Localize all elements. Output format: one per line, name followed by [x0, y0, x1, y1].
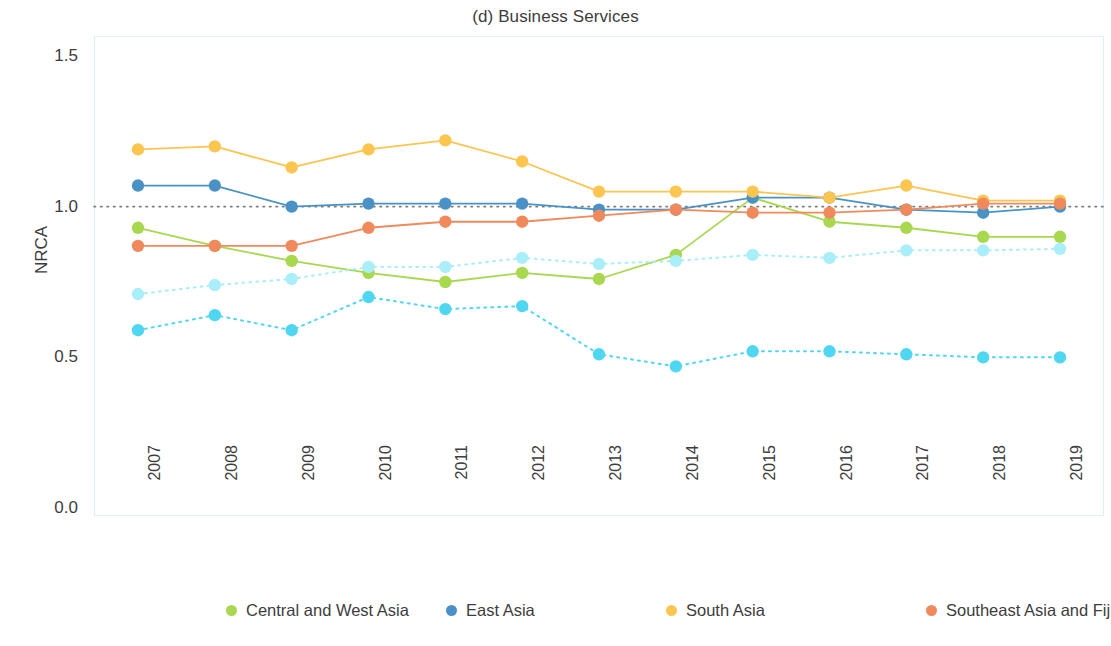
data-point: [1054, 351, 1066, 363]
data-point: [516, 197, 528, 209]
data-point: [900, 203, 912, 215]
data-point: [285, 240, 297, 252]
data-point: [516, 155, 528, 167]
data-point: [132, 288, 144, 300]
data-point: [823, 345, 835, 357]
data-point: [593, 185, 605, 197]
legend-label: South Asia: [686, 601, 765, 620]
data-point: [209, 279, 221, 291]
series-japan: [132, 291, 1066, 373]
data-point: [977, 231, 989, 243]
data-point: [132, 324, 144, 336]
data-point: [670, 255, 682, 267]
data-point: [439, 134, 451, 146]
data-point: [362, 291, 374, 303]
x-tick-label: 2019: [1068, 445, 1086, 525]
data-point: [132, 143, 144, 155]
data-point: [823, 191, 835, 203]
series-people-s-republic-of-china: [132, 243, 1066, 301]
data-point: [209, 140, 221, 152]
data-point: [209, 240, 221, 252]
legend-item[interactable]: Central and West Asia: [226, 598, 446, 622]
legend-swatch-icon: [446, 605, 457, 616]
data-point: [516, 216, 528, 228]
data-point: [670, 360, 682, 372]
data-point: [900, 244, 912, 256]
y-tick-label: 0.0: [20, 498, 78, 518]
data-point: [900, 179, 912, 191]
legend-swatch-icon: [226, 605, 237, 616]
data-point: [285, 273, 297, 285]
x-tick-label: 2015: [761, 445, 779, 525]
y-tick-label: 1.0: [20, 197, 78, 217]
data-point: [516, 267, 528, 279]
data-point: [516, 300, 528, 312]
data-point: [670, 185, 682, 197]
data-point: [132, 240, 144, 252]
data-point: [1054, 197, 1066, 209]
x-tick-label: 2012: [530, 445, 548, 525]
legend-item[interactable]: South Asia: [666, 598, 926, 622]
chart-legend: Central and West AsiaEast AsiaSouth Asia…: [226, 598, 926, 622]
data-point: [746, 345, 758, 357]
data-point: [439, 197, 451, 209]
x-tick-label: 2011: [453, 445, 471, 525]
data-point: [362, 222, 374, 234]
data-point: [746, 249, 758, 261]
x-tick-label: 2018: [991, 445, 1009, 525]
x-tick-label: 2014: [684, 445, 702, 525]
x-tick-label: 2009: [300, 445, 318, 525]
x-tick-label: 2010: [377, 445, 395, 525]
chart-figure: (d) Business Services NRCA 0.00.51.01.5 …: [0, 0, 1111, 646]
data-point: [132, 222, 144, 234]
data-point: [439, 276, 451, 288]
data-point: [362, 143, 374, 155]
legend-label: Central and West Asia: [246, 601, 409, 620]
series-line: [138, 249, 1060, 294]
data-point: [977, 197, 989, 209]
data-point: [209, 179, 221, 191]
legend-item[interactable]: East Asia: [446, 598, 666, 622]
data-point: [439, 216, 451, 228]
data-point: [977, 351, 989, 363]
data-point: [285, 200, 297, 212]
y-tick-label: 0.5: [20, 347, 78, 367]
data-point: [1054, 231, 1066, 243]
x-tick-label: 2007: [146, 445, 164, 525]
legend-swatch-icon: [666, 605, 677, 616]
data-point: [593, 348, 605, 360]
data-point: [362, 261, 374, 273]
data-point: [439, 261, 451, 273]
data-point: [823, 252, 835, 264]
series-south-asia: [132, 134, 1066, 207]
data-point: [285, 161, 297, 173]
data-point: [900, 222, 912, 234]
data-point: [1054, 243, 1066, 255]
legend-label: East Asia: [466, 601, 535, 620]
data-point: [593, 258, 605, 270]
data-point: [285, 255, 297, 267]
data-point: [823, 206, 835, 218]
data-point: [132, 179, 144, 191]
data-point: [516, 252, 528, 264]
data-point: [670, 203, 682, 215]
legend-label: Southeast Asia and Fiji: [946, 601, 1111, 620]
x-tick-label: 2008: [223, 445, 241, 525]
x-tick-label: 2017: [914, 445, 932, 525]
legend-item[interactable]: Southeast Asia and Fiji: [926, 598, 1111, 622]
chart-canvas: [94, 36, 1104, 516]
chart-title: (d) Business Services: [0, 7, 1111, 27]
data-point: [746, 206, 758, 218]
x-tick-label: 2016: [838, 445, 856, 525]
data-point: [439, 303, 451, 315]
data-point: [746, 185, 758, 197]
data-point: [362, 197, 374, 209]
legend-swatch-icon: [926, 605, 937, 616]
data-point: [285, 324, 297, 336]
data-point: [593, 273, 605, 285]
x-tick-label: 2013: [607, 445, 625, 525]
data-point: [977, 244, 989, 256]
data-point: [593, 210, 605, 222]
data-point: [900, 348, 912, 360]
y-tick-label: 1.5: [20, 46, 78, 66]
